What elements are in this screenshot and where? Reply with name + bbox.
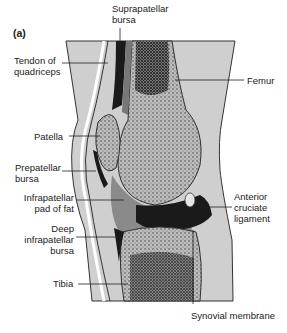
- tibia-dense: [130, 252, 194, 301]
- label-line: Suprapatellar: [112, 3, 169, 14]
- label-femur: Femur: [247, 75, 274, 86]
- label-synovial-membrane: Synovial membrane: [191, 310, 275, 321]
- label-line: Infrapatellar: [22, 192, 74, 203]
- label-deep-infrapatellar-bursa: Deep infrapatellar bursa: [20, 223, 74, 256]
- label-line: bursa: [20, 245, 74, 256]
- label-infrapatellar-pad-of-fat: Infrapatellar pad of fat: [22, 192, 74, 214]
- label-patella: Patella: [34, 131, 63, 142]
- label-line: ligament: [234, 213, 270, 224]
- label-line: Anterior: [234, 191, 270, 202]
- label-line: cruciate: [234, 202, 270, 213]
- label-line: pad of fat: [22, 203, 74, 214]
- label-tendon-of-quadriceps: Tendon of quadriceps: [14, 55, 60, 77]
- panel-label: (a): [13, 27, 26, 39]
- femur-dense: [135, 41, 169, 95]
- label-suprapatellar-bursa: Suprapatellar bursa: [112, 3, 169, 25]
- acl-ligament: [185, 193, 195, 207]
- label-line: bursa: [112, 14, 169, 25]
- label-line: quadriceps: [14, 66, 60, 77]
- label-line: bursa: [15, 173, 61, 184]
- label-line: Deep: [20, 223, 74, 234]
- label-anterior-cruciate-ligament: Anterior cruciate ligament: [234, 191, 270, 224]
- label-line: infrapatellar: [20, 234, 74, 245]
- label-line: Prepatellar: [15, 162, 61, 173]
- label-tibia: Tibia: [53, 278, 73, 289]
- label-line: Tendon of: [14, 55, 60, 66]
- label-prepatellar-bursa: Prepatellar bursa: [15, 162, 61, 184]
